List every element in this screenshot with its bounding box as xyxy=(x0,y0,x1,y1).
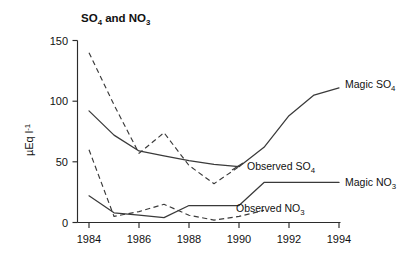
y-tick-label-150: 150 xyxy=(50,35,68,47)
x-tick-label-1994: 1994 xyxy=(327,233,351,245)
x-tick-label-1988: 1988 xyxy=(177,233,201,245)
chart-figure: SO4 and NO3 150 100 50 0 1984 19 xyxy=(0,0,410,268)
series-label-observed-no3-subscript: 3 xyxy=(300,208,304,217)
y-tick-label-0: 0 xyxy=(62,217,68,229)
x-tick-label-1990: 1990 xyxy=(227,233,251,245)
chart-title-and: and NO xyxy=(102,12,146,24)
x-tick-label-1984: 1984 xyxy=(77,233,101,245)
series-label-magic-no3-subscript: 3 xyxy=(392,182,396,191)
y-axis-title-exponent: -1 xyxy=(23,124,32,131)
series-label-observed-no3-text: Observed NO xyxy=(236,202,300,214)
x-tick-label-1986: 1986 xyxy=(127,233,151,245)
series-label-observed-so4-subscript: 4 xyxy=(311,166,316,175)
y-axis-title-main: µEq l xyxy=(23,131,35,156)
y-tick-label-50: 50 xyxy=(56,156,68,168)
chart-title-no-subscript: 3 xyxy=(146,18,151,27)
chart-title-so: SO xyxy=(81,12,98,24)
series-label-observed-so4-text: Observed SO xyxy=(247,160,311,172)
series-label-magic-no3-text: Magic NO xyxy=(345,176,392,188)
series-label-magic-so4-subscript: 4 xyxy=(391,84,396,93)
y-tick-label-100: 100 xyxy=(50,95,68,107)
series-label-magic-so4-text: Magic SO xyxy=(345,78,391,90)
x-tick-label-1992: 1992 xyxy=(277,233,301,245)
